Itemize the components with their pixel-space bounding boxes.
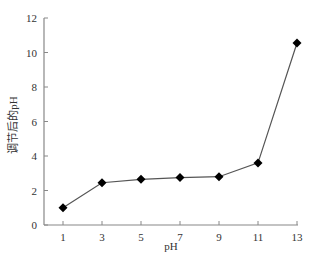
diamond-marker — [98, 178, 107, 187]
y-axis-label: 调节后的pH — [6, 96, 19, 154]
x-tick-label: 11 — [253, 231, 264, 243]
x-tick-label: 5 — [138, 231, 144, 243]
y-tick-label: 2 — [32, 185, 38, 197]
y-tick-label: 10 — [26, 47, 38, 59]
y-tick-label: 4 — [32, 150, 38, 162]
diamond-marker — [293, 39, 302, 48]
x-tick-label: 1 — [60, 231, 66, 243]
y-tick-label: 8 — [32, 81, 38, 93]
x-tick-label: 9 — [216, 231, 222, 243]
x-tick-label: 3 — [99, 231, 105, 243]
diamond-marker — [215, 172, 224, 181]
diamond-marker — [59, 203, 68, 212]
diamond-marker — [176, 173, 185, 182]
line-chart: 024681012 135791113 pH 调节后的pH — [0, 0, 318, 270]
y-tick-label: 0 — [32, 219, 38, 231]
x-axis-ticks: 135791113 — [60, 221, 303, 243]
y-axis-ticks: 024681012 — [26, 12, 48, 231]
diamond-marker — [137, 175, 146, 184]
diamond-marker — [254, 158, 263, 167]
y-tick-label: 12 — [26, 12, 37, 24]
x-tick-label: 7 — [177, 231, 183, 243]
axes — [44, 18, 298, 225]
x-tick-label: 13 — [292, 231, 304, 243]
data-series — [59, 39, 302, 213]
x-axis-label: pH — [164, 240, 178, 252]
y-tick-label: 6 — [32, 116, 38, 128]
